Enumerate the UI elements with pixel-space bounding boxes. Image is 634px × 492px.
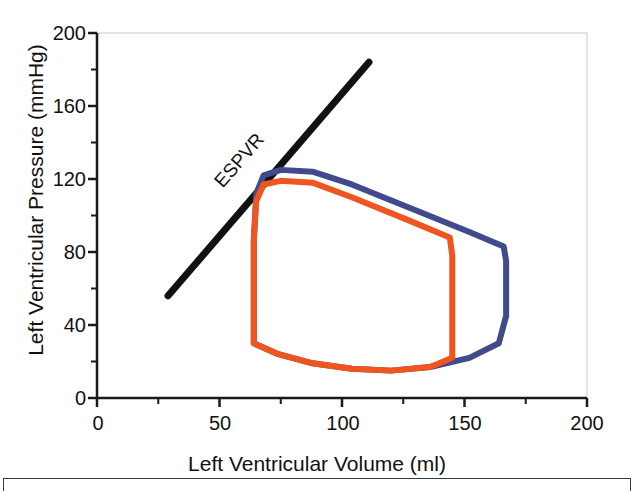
y-tick-label: 200	[34, 22, 86, 45]
y-tick-label: 80	[34, 241, 86, 264]
series-layer	[168, 62, 506, 370]
page-frame-rule	[3, 478, 631, 491]
y-axis-ticks	[88, 33, 97, 398]
y-tick-label: 120	[34, 168, 86, 191]
x-tick-label: 200	[557, 412, 617, 435]
y-tick-label: 160	[34, 95, 86, 118]
axis-frame	[97, 33, 587, 398]
x-axis-title: Left Ventricular Volume (ml)	[0, 452, 634, 476]
plot-frame-box	[97, 33, 587, 398]
y-tick-label: 40	[34, 314, 86, 337]
x-tick-label: 50	[190, 412, 250, 435]
series-pv-loop-1	[254, 170, 506, 371]
x-tick-label: 150	[435, 412, 495, 435]
y-axis-title: Left Ventricular Pressure (mmHg)	[24, 0, 48, 430]
x-tick-label: 0	[68, 412, 128, 435]
x-tick-label: 100	[313, 412, 373, 435]
y-tick-label: 0	[34, 387, 86, 410]
series-pv-loop-2	[254, 181, 452, 371]
pv-loop-figure: Left Ventricular Pressure (mmHg) Left Ve…	[0, 0, 634, 492]
x-axis-ticks	[97, 398, 587, 407]
